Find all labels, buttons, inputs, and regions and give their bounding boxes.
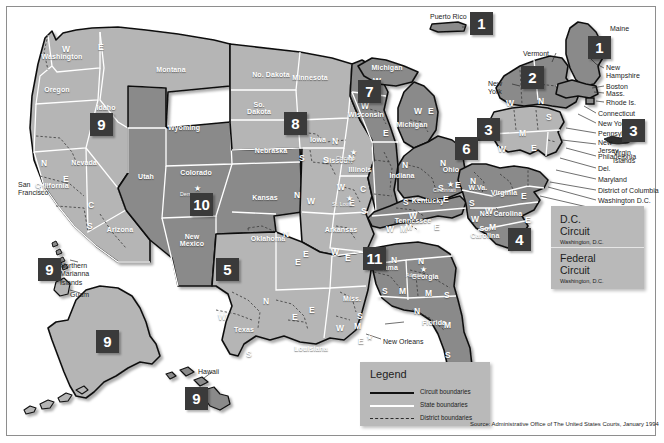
panel-divider	[551, 247, 644, 248]
circuit-number-badge: 6	[455, 137, 478, 160]
source-note: Source: Administrative Office of The Uni…	[470, 421, 659, 427]
circuit-number-badge: 1	[470, 12, 493, 35]
line-solid-white-icon	[370, 405, 414, 407]
federal-circuit-location: Washington, D.C.	[560, 278, 604, 284]
dc-circuit-name: D.C. Circuit	[560, 213, 604, 238]
legend-title: Legend	[370, 368, 407, 380]
circuit-number-badge: 3	[622, 119, 645, 142]
circuit-number-badge: 4	[508, 228, 531, 251]
legend-label-district: District boundaries	[420, 414, 472, 421]
circuit-number-badge: 9	[96, 330, 119, 353]
special-courts-panel: D.C. Circuit Washington, D.C. Federal Ci…	[551, 206, 644, 289]
circuit-number-badge: 5	[216, 258, 239, 281]
line-solid-black-icon	[370, 392, 414, 395]
circuit-number-badge: 10	[190, 193, 213, 216]
dc-circuit-entry: D.C. Circuit Washington, D.C.	[560, 213, 604, 245]
circuit-number-badge: 1	[588, 36, 611, 59]
federal-circuit-name: Federal Circuit	[560, 252, 604, 277]
legend-label-state: State boundaries	[420, 401, 468, 408]
circuit-number-badge: 11	[363, 247, 386, 270]
circuit-number-badge: 8	[284, 112, 307, 135]
dc-circuit-location: Washington, D.C.	[560, 239, 604, 245]
circuit-number-badge: 2	[521, 66, 544, 89]
legend-label-circuit: Circuit boundaries	[420, 388, 471, 395]
circuit-number-badge: 9	[90, 113, 113, 136]
circuit-number-badge: 3	[477, 118, 500, 141]
legend-panel: Legend Circuit boundaries State boundari…	[360, 362, 490, 426]
circuit-number-badge: 7	[358, 80, 381, 103]
federal-circuit-entry: Federal Circuit Washington, D.C.	[560, 252, 604, 284]
circuit-number-badge: 9	[38, 258, 61, 281]
map-screenshot: WashingtonOregonIdahoMontanaWyomingNevad…	[0, 0, 664, 443]
circuit-number-badge: 9	[185, 387, 208, 410]
line-dashed-icon	[370, 418, 414, 419]
